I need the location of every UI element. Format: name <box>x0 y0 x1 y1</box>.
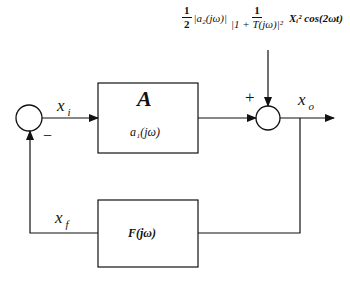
minus-sign: − <box>43 128 52 144</box>
left-summing-junction <box>16 105 42 131</box>
feedback-path-right <box>198 118 300 233</box>
half-numerator: 1 <box>182 4 192 18</box>
loop-denominator: |1 + T(jω)|² <box>229 18 285 31</box>
block-diagram-canvas <box>0 0 350 285</box>
half-fraction: 1 2 <box>182 4 192 31</box>
half-denominator: 2 <box>182 18 192 31</box>
signal-label-xo: xo <box>298 91 314 108</box>
block-f-transfer: F(jω) <box>128 227 156 239</box>
a2-magnitude: |a₂(jω)| <box>194 12 228 24</box>
loop-fraction: 1 |1 + T(jω)|² <box>229 4 285 31</box>
signal-label-xi: xi <box>57 97 71 114</box>
right-summing-junction <box>256 106 280 130</box>
disturbance-term: Xᵢ² cos(2ωt) <box>289 12 343 24</box>
loop-numerator: 1 <box>252 4 262 18</box>
disturbance-formula: 1 2 |a₂(jω)| 1 |1 + T(jω)|² Xᵢ² cos(2ωt) <box>180 4 343 31</box>
block-a-title: A <box>137 88 152 110</box>
block-a-transfer: a₁(jω) <box>130 126 160 138</box>
signal-label-xf: xf <box>55 209 69 226</box>
plus-sign: + <box>245 89 255 106</box>
